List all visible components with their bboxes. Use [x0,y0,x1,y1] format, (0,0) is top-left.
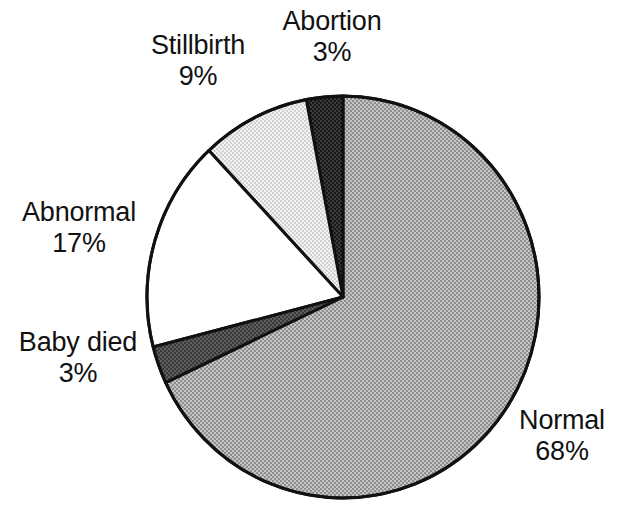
pie-label-abortion-name: Abortion [262,6,402,37]
pie-label-stillbirth-name: Stillbirth [128,30,268,61]
pie-label-stillbirth-percent: 9% [128,61,268,92]
pie-label-abnormal-name: Abnormal [4,197,154,228]
pie-label-normal-name: Normal [492,405,632,436]
pie-label-baby-died-name: Baby died [2,327,154,358]
pie-label-abortion-percent: 3% [262,37,402,68]
pie-label-normal-percent: 68% [492,436,632,467]
pie-label-abnormal-percent: 17% [4,228,154,259]
pie-chart: Stillbirth 9% Abortion 3% Abnormal 17% B… [0,0,636,511]
pie-label-baby-died: Baby died 3% [2,327,154,389]
pie-label-normal: Normal 68% [492,405,632,467]
pie-label-abortion: Abortion 3% [262,6,402,68]
pie-label-stillbirth: Stillbirth 9% [128,30,268,92]
pie-label-baby-died-percent: 3% [2,358,154,389]
pie-label-abnormal: Abnormal 17% [4,197,154,259]
